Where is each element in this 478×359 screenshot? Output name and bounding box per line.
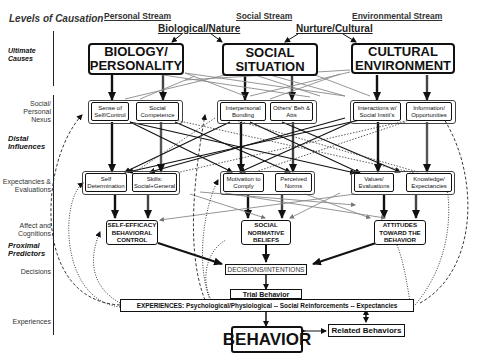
self-determination-node: Self Determination	[85, 173, 127, 192]
level-ultimate-causes: Ultimate Causes	[8, 47, 42, 63]
motivation-to-comply-node: Motivation to Comply	[223, 173, 264, 192]
decisions-intentions-node: DECISIONS/INTENTIONS	[225, 264, 307, 275]
interpersonal-bonding-node: Interpersonal Bonding	[220, 102, 266, 121]
social-situation-node: SOCIAL SITUATION	[222, 43, 318, 76]
knowledge-expectancies-node: Knowledge/ Expectancies	[406, 173, 452, 192]
biology-personality-node: BIOLOGY/ PERSONALITY	[88, 43, 184, 75]
nurture-cultural-label: Nurture/Cultural	[296, 23, 373, 34]
values-evaluations-node: Values/ Evaluations	[354, 173, 394, 192]
personal-stream-label: Personal Stream	[104, 11, 171, 21]
sense-of-self-control-node: Sense of Self/Control	[91, 102, 129, 121]
level-distal-influences: Distal Influences	[8, 135, 48, 151]
level-expectancies-evaluations: Expectancies & Evaluations	[2, 178, 51, 194]
behavior-node: BEHAVIOR	[231, 326, 303, 353]
perceived-norms-node: Perceived Norms	[275, 173, 312, 192]
environmental-stream-label: Environmental Stream	[352, 11, 442, 21]
self-efficacy-behavioral-control-node: SELF-EFFICACY BEHAVIORAL CONTROL	[106, 220, 158, 245]
level-social-personal-nexus: Social/ Personal Nexus	[6, 100, 51, 124]
level-decisions: Decisions	[6, 268, 51, 276]
information-opportunities-node: Information/ Opportunities	[406, 102, 452, 121]
related-behaviors-node: Related Behaviors	[328, 324, 405, 337]
level-affect-cognitions: Affect and Cognitions	[6, 222, 51, 238]
social-stream-label: Social Stream	[236, 11, 292, 21]
level-proximal-predictors: Proximal Predictors	[8, 242, 48, 258]
axis-line-proximal	[53, 215, 54, 335]
biological-nature-label: Biological/Nature	[158, 23, 240, 34]
interactions-social-institutions-node: Interactions w/ Social Instit's	[353, 102, 401, 121]
trial-behavior-node: Trial Behavior	[230, 289, 302, 299]
level-experiences: Experiences	[6, 318, 51, 326]
axis-line-ultimate	[53, 31, 54, 86]
others-behaviors-attitudes-node: Others' Beh & Atts	[270, 102, 313, 121]
skills-social-general-node: Skills: Social+General	[132, 173, 177, 192]
axis-line-distal	[53, 95, 54, 215]
theory-of-triadic-influence-diagram: Levels of Causation Ultimate Causes Soci…	[0, 0, 478, 359]
attitudes-toward-behavior-node: ATTITUDES TOWARD THE BEHAVIOR	[374, 220, 426, 245]
levels-of-causation-title: Levels of Causation	[9, 13, 103, 25]
cultural-environment-node: CULTURAL ENVIRONMENT	[351, 43, 455, 74]
social-normative-beliefs-node: SOCIAL NORMATIVE BELIEFS	[241, 220, 291, 245]
social-competence-node: Social Competence	[136, 102, 179, 121]
experiences-node: EXPERIENCES: Psychological/Physiological…	[120, 299, 414, 312]
